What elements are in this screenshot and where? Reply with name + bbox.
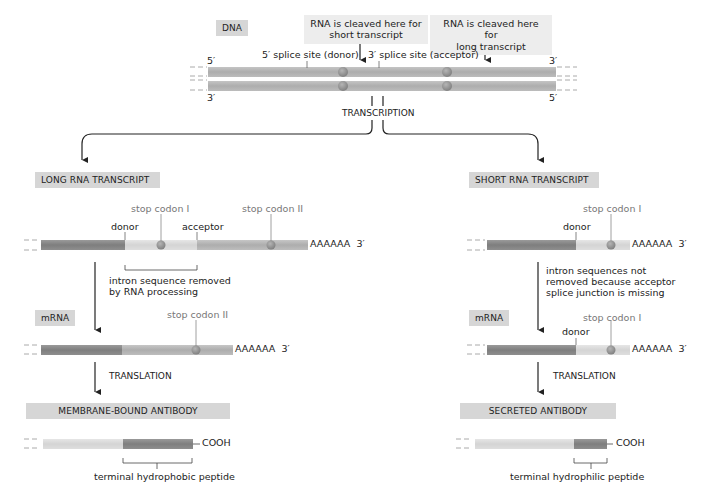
poly-a-tail: AAAAAA [632, 343, 672, 354]
left-poly-a: AAAAAA 3′ [310, 239, 365, 250]
long-transcript-bar [24, 214, 308, 250]
secreted-antibody-label: SECRETED ANTIBODY [460, 403, 616, 419]
dna-label: DNA [216, 20, 248, 36]
three-prime-end: 3′ [678, 343, 686, 354]
poly-a-tail: AAAAAA [632, 238, 672, 249]
short-transcript-label: SHORT RNA TRANSCRIPT [469, 172, 599, 188]
right-stop-codon-1: stop codon I [583, 204, 641, 215]
short-transcript-bar [467, 214, 630, 250]
poly-a-tail: AAAAAA [235, 343, 275, 354]
hydrophobic-peptide-label: terminal hydrophobic peptide [94, 472, 235, 483]
left-translation-label: TRANSLATION [109, 371, 172, 381]
callout-short-line1: RNA is cleaved here for [310, 18, 422, 29]
right-poly-a: AAAAAA 3′ [632, 239, 687, 250]
left-acceptor-label: acceptor [182, 222, 224, 233]
right-donor-label: donor [563, 222, 591, 233]
mrna-left-label: mRNA [35, 310, 75, 326]
three-prime-end: 3′ [678, 238, 686, 249]
left-cooh: COOH [202, 438, 231, 449]
membrane-antibody-label: MEMBRANE-BOUND ANTIBODY [26, 403, 230, 419]
dna-double-helix [190, 61, 577, 91]
right-mrna-stop-codon: stop codon I [583, 313, 641, 324]
right-cooh: COOH [616, 438, 645, 449]
left-intron-note-line2: by RNA processing [109, 287, 231, 298]
hydrophilic-peptide-label: terminal hydrophilic peptide [510, 472, 644, 483]
transcription-branch-arrows [82, 96, 538, 160]
diagram-graphics [0, 0, 708, 500]
right-intron-note-line3: splice junction is missing [546, 288, 675, 299]
three-prime-end: 3′ [356, 238, 364, 249]
callout-short-line2: short transcript [310, 29, 422, 40]
left-intron-note: intron sequence removed by RNA processin… [109, 276, 231, 298]
membrane-antibody-protein [24, 439, 200, 469]
mrna-right-label: mRNA [469, 310, 509, 326]
left-stop-codon-2: stop codon II [242, 204, 303, 215]
acceptor-site-label: 3′ splice site (acceptor) [368, 50, 479, 61]
dna-top-5prime: 5′ [207, 56, 215, 67]
dna-bottom-5prime: 5′ [549, 93, 557, 104]
three-prime-end: 3′ [281, 343, 289, 354]
secreted-antibody-protein [456, 439, 613, 469]
dna-top-3prime: 3′ [549, 56, 557, 67]
right-intron-note: intron sequences not removed because acc… [546, 266, 675, 299]
dna-bottom-3prime: 3′ [207, 93, 215, 104]
right-mrna-donor: donor [562, 327, 590, 338]
transcription-label: TRANSCRIPTION [342, 108, 415, 118]
donor-site-label: 5′ splice site (donor) [262, 50, 359, 61]
left-donor-label: donor [111, 222, 139, 233]
right-mrna-poly-a: AAAAAA 3′ [632, 344, 687, 355]
left-stop-codon-1: stop codon I [131, 204, 189, 215]
left-mrna-stop-codon: stop codon II [167, 310, 228, 321]
poly-a-tail: AAAAAA [310, 238, 350, 249]
callout-short-cleavage: RNA is cleaved here for short transcript [304, 15, 428, 44]
left-mrna-poly-a: AAAAAA 3′ [235, 344, 290, 355]
right-translation-label: TRANSLATION [553, 371, 616, 381]
callout-long-line1: RNA is cleaved here for [436, 18, 546, 41]
long-transcript-label: LONG RNA TRANSCRIPT [35, 172, 160, 188]
